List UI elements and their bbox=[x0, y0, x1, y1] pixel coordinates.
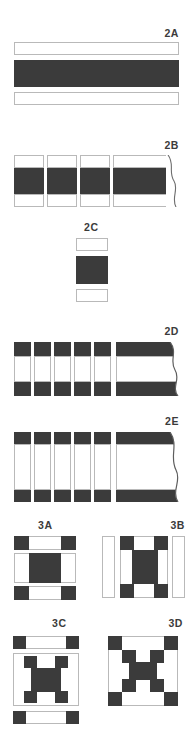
panel-2d-strip2-core bbox=[34, 356, 51, 382]
panel-3b-side-bar-right bbox=[172, 536, 185, 598]
panel-3b-corner-br bbox=[154, 584, 168, 598]
panel-2a-band-middle bbox=[14, 60, 179, 87]
panel-2e-wide-core bbox=[116, 444, 181, 490]
panel-2b-col2-middle bbox=[47, 168, 77, 194]
panel-2d-strip3-cap-bottom bbox=[54, 382, 71, 396]
panel-3d-label: 3D bbox=[168, 618, 183, 629]
panel-2b-col1-bottom bbox=[14, 194, 44, 207]
panel-3b-side-bar-left bbox=[102, 536, 115, 598]
panel-2b-col3-middle bbox=[80, 168, 110, 194]
figure-root: 2A 2B 2C bbox=[0, 0, 193, 733]
panel-3d-outer-corner-br bbox=[164, 692, 178, 706]
panel-3a-middle-core bbox=[29, 553, 61, 583]
panel-2b-label: 2B bbox=[164, 140, 179, 151]
panel-2e-strip3-cap-top bbox=[54, 432, 71, 444]
panel-2d-wide-cap-top bbox=[116, 342, 181, 356]
panel-3c-bottom-bar-right bbox=[66, 711, 79, 724]
panel-3a-top-right bbox=[61, 536, 76, 550]
panel-2b-col3-bottom bbox=[80, 194, 110, 207]
panel-3a-label: 3A bbox=[38, 520, 53, 531]
panel-2e-wide-cap-bottom bbox=[116, 490, 181, 502]
panel-2b-col4-middle bbox=[113, 168, 181, 194]
panel-3c-core-center bbox=[31, 668, 61, 692]
panel-2b-col4-top bbox=[113, 155, 181, 168]
panel-2e-strip1-core bbox=[14, 444, 31, 490]
panel-2d-strip5-cap-bottom bbox=[94, 382, 111, 396]
panel-3d-core-center bbox=[129, 662, 157, 680]
panel-2b-col3-top bbox=[80, 155, 110, 168]
panel-2e-label: 2E bbox=[165, 416, 179, 427]
panel-2b: 2B bbox=[0, 140, 193, 212]
panel-2e-wide-cap-top bbox=[116, 432, 181, 444]
panel-2d-label: 2D bbox=[164, 326, 179, 337]
panel-3d-outer-corner-tr bbox=[164, 636, 178, 650]
panel-2e-strip5-core bbox=[94, 444, 111, 490]
panel-2e-strip2-cap-top bbox=[34, 432, 51, 444]
panel-2e-strip2-core bbox=[34, 444, 51, 490]
panel-2d-strip4-core bbox=[74, 356, 91, 382]
panel-2e-strip1-cap-bottom bbox=[14, 490, 31, 502]
panel-3d-outer-corner-tl bbox=[108, 636, 122, 650]
panel-3b-label: 3B bbox=[170, 520, 185, 531]
panel-2b-col4-bottom bbox=[113, 194, 181, 207]
panel-2e: 2E bbox=[0, 416, 193, 502]
panel-2d-strip4-cap-bottom bbox=[74, 382, 91, 396]
panel-2a-label: 2A bbox=[164, 28, 179, 39]
panel-2c-band-top bbox=[76, 238, 108, 251]
panel-2e-strip1-cap-top bbox=[14, 432, 31, 444]
panel-2e-strip3-core bbox=[54, 444, 71, 490]
panel-2d: 2D bbox=[0, 326, 193, 398]
panel-2a-band-top bbox=[14, 42, 179, 55]
panel-3c-corner-tr bbox=[55, 656, 68, 668]
panel-3b-corner-tl bbox=[120, 536, 134, 550]
panel-2d-strip2-cap-top bbox=[34, 342, 51, 356]
panel-3c-corner-bl bbox=[24, 691, 37, 703]
panel-3c-bottom-bar-left bbox=[13, 711, 26, 724]
panel-2d-strip3-cap-top bbox=[54, 342, 71, 356]
panel-2d-strip4-cap-top bbox=[74, 342, 91, 356]
panel-3b-corner-tr bbox=[154, 536, 168, 550]
panel-3c-corner-tl bbox=[24, 656, 37, 668]
panel-2d-wide-cap-bottom bbox=[116, 382, 181, 396]
panel-3d-inner-corner-br bbox=[150, 679, 164, 692]
panel-3c-top-bar-left bbox=[13, 636, 26, 649]
panel-2d-strip2-cap-bottom bbox=[34, 382, 51, 396]
panel-3a: 3A bbox=[0, 520, 96, 604]
panel-3b-core-center bbox=[132, 550, 158, 584]
panel-2d-strip5-cap-top bbox=[94, 342, 111, 356]
panel-2a: 2A bbox=[0, 28, 193, 108]
panel-2d-strip1-cap-top bbox=[14, 342, 31, 356]
panel-2c-band-middle bbox=[76, 256, 108, 284]
panel-2c-band-bottom bbox=[76, 289, 108, 302]
panel-3a-bottom-right bbox=[61, 586, 76, 600]
panel-2e-strip3-cap-bottom bbox=[54, 490, 71, 502]
panel-3d-inner-corner-bl bbox=[122, 679, 136, 692]
panel-2e-strip5-cap-bottom bbox=[94, 490, 111, 502]
panel-3a-top-left bbox=[14, 536, 29, 550]
panel-2e-strip4-cap-bottom bbox=[74, 490, 91, 502]
panel-2b-col1-middle bbox=[14, 168, 44, 194]
panel-2d-wide-core bbox=[116, 356, 181, 382]
panel-2e-strip5-cap-top bbox=[94, 432, 111, 444]
panel-2d-strip1-cap-bottom bbox=[14, 382, 31, 396]
panel-2b-col2-bottom bbox=[47, 194, 77, 207]
panel-2c: 2C bbox=[0, 222, 193, 300]
panel-2e-strip2-cap-bottom bbox=[34, 490, 51, 502]
panel-2e-strip4-cap-top bbox=[74, 432, 91, 444]
panel-2d-strip3-core bbox=[54, 356, 71, 382]
panel-2d-strip5-core bbox=[94, 356, 111, 382]
panel-2b-col2-top bbox=[47, 155, 77, 168]
panel-3b-corner-bl bbox=[120, 584, 134, 598]
panel-3d: 3D bbox=[96, 618, 193, 730]
panel-3c-corner-br bbox=[55, 691, 68, 703]
panel-3a-bottom-left bbox=[14, 586, 29, 600]
panel-3c: 3C bbox=[0, 618, 96, 730]
panel-3c-top-bar-right bbox=[66, 636, 79, 649]
panel-2e-strip4-core bbox=[74, 444, 91, 490]
panel-2a-band-bottom bbox=[14, 92, 179, 105]
panel-3b: 3B bbox=[96, 520, 193, 604]
panel-3c-label: 3C bbox=[52, 618, 67, 629]
panel-3d-outer-corner-bl bbox=[108, 692, 122, 706]
panel-2d-strip1-core bbox=[14, 356, 31, 382]
panel-2b-col1-top bbox=[14, 155, 44, 168]
